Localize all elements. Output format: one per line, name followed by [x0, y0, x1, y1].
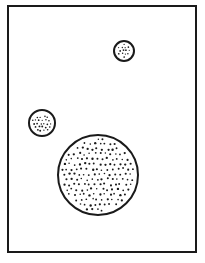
canvas-background — [0, 0, 205, 263]
circle-medium-outline — [29, 110, 55, 136]
figure-canvas — [0, 0, 205, 263]
circle-large-outline — [58, 135, 138, 215]
circle-large — [58, 135, 138, 215]
circle-small — [114, 41, 134, 61]
figure-container — [0, 0, 205, 263]
circle-medium — [29, 110, 55, 136]
